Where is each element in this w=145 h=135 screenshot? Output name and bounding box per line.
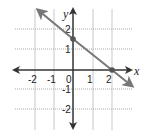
svg-text:1: 1 (65, 44, 71, 55)
y-axis-label: y (62, 7, 69, 21)
plotted-line-lower (73, 39, 132, 86)
x-intercept-point (109, 67, 115, 73)
y-intercept-point (70, 36, 76, 42)
svg-text:-2: -2 (62, 104, 71, 115)
svg-text:-2: -2 (28, 74, 37, 85)
svg-text:-1: -1 (62, 84, 71, 95)
coordinate-plane: y x -2 -1 0 1 2 2 1 -1 -2 (0, 0, 145, 135)
svg-text:1: 1 (87, 74, 93, 85)
svg-text:2: 2 (106, 74, 112, 85)
svg-text:-1: -1 (47, 74, 56, 85)
x-axis-label: x (133, 64, 140, 78)
